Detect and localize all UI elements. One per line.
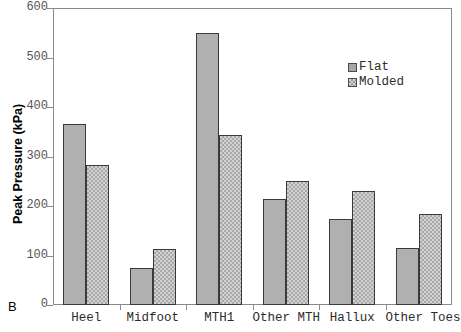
legend-item-molded: Molded [348, 75, 404, 90]
legend-item-flat: Flat [348, 60, 404, 75]
y-axis-tick-label: 600 [8, 0, 48, 14]
x-axis-tick-mark [386, 305, 387, 310]
y-axis-tick-mark [47, 157, 53, 158]
x-axis-tick-mark [186, 305, 187, 310]
y-axis-tick-labels: 0100200300400500600 [0, 0, 48, 332]
y-axis-tick-label: 200 [8, 198, 48, 212]
bar-flat-mth1 [196, 33, 219, 305]
x-axis-tick-label: Hallux [319, 311, 386, 325]
bar-molded-heel [86, 165, 109, 305]
legend-label-flat: Flat [359, 60, 389, 75]
y-axis-tick-label: 400 [8, 99, 48, 113]
x-axis-tick-mark [319, 305, 320, 310]
bar-chart-figure: Peak Pressure (kPa) B 010020030040050060… [0, 0, 461, 332]
x-axis-tick-labels: HeelMidfootMTH1Other MTHHalluxOther Toes [53, 311, 452, 332]
bar-molded-other-toes [419, 214, 442, 305]
legend: Flat Molded [348, 60, 404, 90]
bars-layer [53, 8, 452, 305]
y-axis-tick-label: 300 [8, 149, 48, 163]
y-axis-tick-mark [47, 206, 53, 207]
y-axis-tick-mark [47, 107, 53, 108]
bar-flat-midfoot [130, 268, 153, 305]
bar-molded-midfoot [153, 249, 176, 305]
x-axis-tick-label: MTH1 [186, 311, 253, 325]
legend-label-molded: Molded [359, 75, 404, 90]
x-axis-tick-label: Other Toes [386, 311, 453, 325]
y-axis-tick-mark [47, 305, 53, 306]
x-axis-tick-mark [253, 305, 254, 310]
y-axis-tick-mark [47, 58, 53, 59]
x-axis-tick-label: Other MTH [253, 311, 320, 325]
bar-flat-other-toes [396, 248, 419, 305]
bar-molded-mth1 [219, 135, 242, 305]
x-axis-tick-mark [120, 305, 121, 310]
x-axis-tick-label: Midfoot [120, 311, 187, 325]
bar-flat-hallux [329, 219, 352, 305]
y-axis-tick-mark [47, 256, 53, 257]
legend-swatch-flat-icon [348, 63, 357, 72]
y-axis-tick-label: 500 [8, 50, 48, 64]
y-axis-tick-label: 100 [8, 248, 48, 262]
bar-flat-other-mth [263, 199, 286, 305]
y-axis-tick-label: 0 [8, 297, 48, 311]
y-axis-tick-mark [47, 8, 53, 9]
bar-molded-other-mth [286, 181, 309, 305]
bar-molded-hallux [352, 191, 375, 305]
x-axis-tick-label: Heel [53, 311, 120, 325]
bar-flat-heel [63, 124, 86, 305]
legend-swatch-molded-icon [348, 78, 357, 87]
